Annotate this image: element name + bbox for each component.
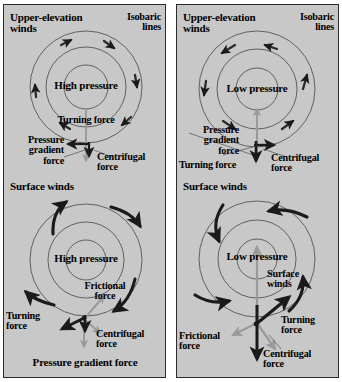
label-surface-winds-right: Surface winds [183, 181, 247, 192]
sw-line1-right: Surface [267, 268, 299, 279]
label-pressure-gradient-force-surface-left: Pressure gradient force [9, 357, 161, 368]
cf-line2-upper-right: force [271, 162, 292, 173]
label-pressure-gradient-force-upper-left: Pressuregradientforce [6, 135, 64, 166]
tf-line1-surface-right: Turning [281, 314, 315, 325]
tf-line2-surface-left: force [6, 320, 27, 331]
cf-line1-upper-right: Centrifugal [271, 152, 319, 163]
pgf-line1-upper-left: Pressure [28, 134, 64, 145]
isobaric-line1-left: Isobaric [127, 11, 161, 22]
label-turning-force-upper-right: Turning force [179, 160, 236, 170]
ff-line1-right: Frictional [179, 330, 220, 341]
uew-line2-left: winds [10, 22, 37, 34]
tf-line2-surface-right: force [281, 324, 302, 335]
pgf-line1-upper-right: Pressure [203, 124, 239, 135]
label-upper-elevation-winds-right: Upper-elevationwinds [183, 12, 255, 34]
label-frictional-force-left: Frictionalforce [68, 281, 142, 302]
label-centrifugal-force-upper-right: Centrifugalforce [271, 153, 319, 174]
panel-high-pressure: Upper-elevationwinds Isobariclines High … [3, 4, 166, 378]
label-pressure-gradient-force-upper-right: Pressuregradientforce [177, 125, 239, 156]
label-surface-winds-inner-right: Surfacewinds [267, 269, 299, 290]
label-isobaric-lines-left: Isobariclines [97, 12, 161, 33]
pgf-line2-upper-left: gradient [29, 144, 64, 155]
surface-force-vectors-right [233, 247, 289, 359]
label-turning-force-upper-left: Turning force [32, 115, 140, 125]
cf-line1-upper-left: Centrifugal [97, 151, 145, 162]
panel-low-pressure: Upper-elevationwinds Isobariclines Low p… [176, 4, 339, 378]
uew-line2-right: winds [183, 22, 210, 34]
ff-line2-right: force [179, 340, 200, 351]
label-high-pressure-surface-left: High pressure [31, 253, 141, 264]
cf-line1-surface-left: Centrifugal [96, 328, 144, 339]
figure-root: Upper-elevationwinds Isobariclines High … [0, 0, 342, 382]
cf-line2-surface-right: force [263, 358, 284, 369]
label-centrifugal-force-surface-left: Centrifugalforce [96, 329, 144, 350]
label-turning-force-surface-right: Turningforce [281, 315, 315, 336]
ff-line2-left: force [95, 290, 116, 301]
label-high-pressure-upper-left: High pressure [31, 80, 141, 91]
label-surface-winds-left: Surface winds [10, 181, 74, 192]
label-centrifugal-force-upper-left: Centrifugalforce [97, 152, 145, 173]
pgf-line3-upper-left: force [43, 155, 64, 166]
tf-line1-surface-left: Turning [6, 310, 40, 321]
sw-line2-right: winds [267, 278, 291, 289]
cf-line2-surface-left: force [96, 338, 117, 349]
force-node-surface-right [254, 322, 259, 327]
vector-centrifugal-gray-surface-right [257, 323, 275, 349]
uew-line1-left: Upper-elevation [10, 11, 82, 23]
label-centrifugal-force-surface-right: Centrifugalforce [263, 349, 311, 370]
label-low-pressure-upper-right: Low pressure [202, 83, 312, 94]
pgf-line2-upper-right: gradient [204, 134, 239, 145]
vector-frictional-surface-right [233, 323, 257, 335]
uew-line1-right: Upper-elevation [183, 11, 255, 23]
label-low-pressure-surface-right: Low pressure [202, 251, 312, 262]
label-frictional-force-right: Frictionalforce [179, 331, 220, 352]
label-upper-elevation-winds-left: Upper-elevationwinds [10, 12, 82, 34]
label-turning-force-surface-left: Turningforce [6, 311, 40, 332]
isobaric-line2-right: lines [315, 21, 334, 32]
pgf-line3-upper-right: force [218, 145, 239, 156]
label-isobaric-lines-right: Isobariclines [270, 12, 334, 33]
force-node-surface-left [82, 316, 87, 321]
ff-line1-left: Frictional [84, 280, 125, 291]
isobaric-line1-right: Isobaric [300, 11, 334, 22]
isobaric-line2-left: lines [142, 21, 161, 32]
cf-line2-upper-left: force [97, 161, 118, 172]
cf-line1-surface-right: Centrifugal [263, 348, 311, 359]
